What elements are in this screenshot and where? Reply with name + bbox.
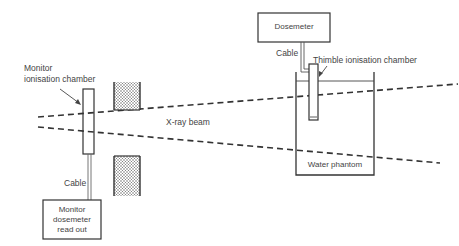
- dosemeter-cable-label: Cable: [276, 48, 298, 58]
- x-ray-beam-label: X-ray beam: [166, 117, 210, 127]
- collimator: [114, 82, 140, 196]
- thimble-chamber-label: Thimble ionisation chamber: [313, 55, 417, 65]
- dosemeter-label: Dosemeter: [258, 22, 330, 32]
- beam-lower-edge: [38, 127, 440, 163]
- x-ray-beam: [38, 84, 458, 163]
- monitor-chamber-label-line1: Monitor: [24, 63, 52, 73]
- collimator-lower-block: [114, 156, 140, 196]
- arrowhead-icon: [75, 99, 81, 105]
- collimator-upper-block: [114, 82, 140, 110]
- monitor-cable-label: Cable: [64, 178, 86, 188]
- monitor-readout-line1: Monitor: [43, 205, 101, 215]
- water-phantom-label: Water phantom: [296, 160, 374, 170]
- beam-upper-edge: [38, 84, 458, 117]
- monitor-chamber-label-line2: ionisation chamber: [24, 74, 95, 84]
- monitor-chamber-pointer: [60, 89, 79, 103]
- monitor-readout-line3: read out: [43, 225, 101, 235]
- monitor-readout-line2: dosemeter: [43, 215, 101, 225]
- monitor-readout-label: Monitor dosemeter read out: [43, 205, 101, 235]
- thimble-ionisation-chamber: [309, 64, 318, 120]
- monitor-ionisation-chamber: [83, 89, 94, 154]
